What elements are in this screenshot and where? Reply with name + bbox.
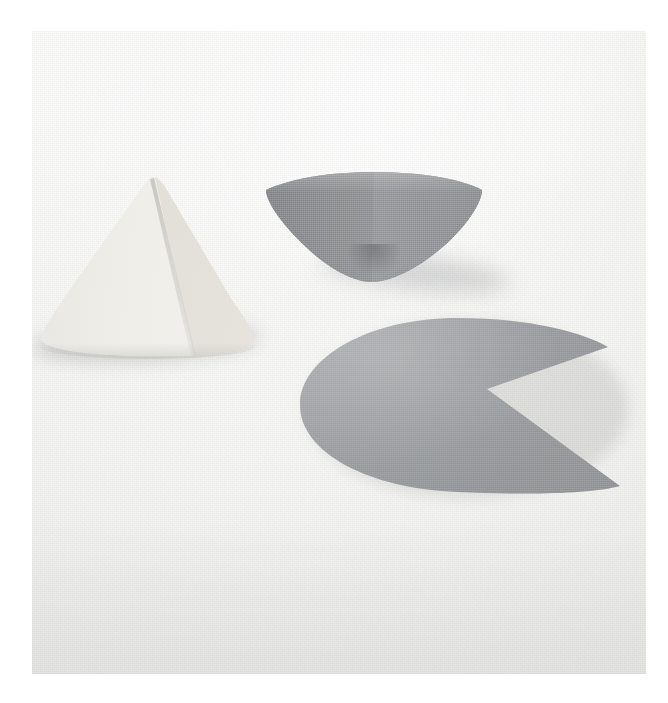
paper-cone-upright [32, 175, 273, 375]
screenshot-root: Three pale geometric paper forms photogr… [0, 0, 668, 703]
photograph [32, 31, 646, 674]
image-alt-text: Three pale geometric paper forms photogr… [0, 0, 1, 1]
cone-base-edge [40, 333, 256, 359]
flat-disc-with-wedge-cutout [288, 305, 632, 505]
bowl-tip-shading [342, 244, 406, 286]
bowl-rim-highlight [264, 170, 484, 212]
paper-cone-inverted-bowl [258, 168, 498, 298]
